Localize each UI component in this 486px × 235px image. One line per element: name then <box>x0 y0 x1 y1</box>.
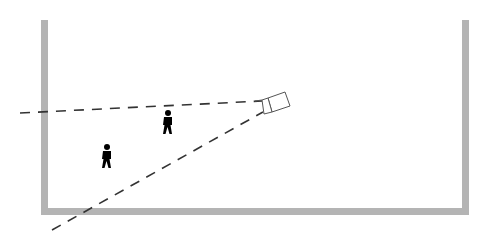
floor <box>41 208 469 215</box>
person-icon <box>102 144 111 168</box>
person-icon <box>163 110 172 134</box>
right-wall <box>462 20 469 215</box>
view-line-upper <box>20 101 262 113</box>
diagram-canvas <box>0 0 486 235</box>
left-wall <box>41 20 48 215</box>
camera-coverage-diagram <box>0 0 486 235</box>
security-camera-icon <box>255 92 290 114</box>
